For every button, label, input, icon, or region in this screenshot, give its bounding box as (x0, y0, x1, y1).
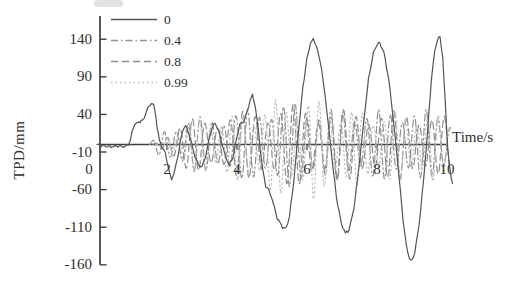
legend-item-2: 0.8 (110, 51, 188, 72)
legend: 0 0.4 0.8 0.99 (110, 9, 188, 93)
x-tick-label: 6 (292, 162, 322, 177)
legend-item-0: 0 (110, 9, 188, 30)
legend-line-solid-icon (110, 17, 158, 22)
y-tick-label: -110 (38, 220, 92, 235)
legend-line-dotted-icon (110, 80, 158, 85)
legend-item-1: 0.4 (110, 30, 188, 51)
y-axis-title: TPD/mm (11, 121, 28, 180)
y-tick-label: 140 (38, 32, 92, 47)
x-tick-label: 0 (74, 162, 104, 177)
legend-label: 0.99 (164, 76, 188, 90)
legend-label: 0.8 (164, 55, 181, 69)
x-tick-label: 4 (222, 162, 252, 177)
y-tick-label: 40 (38, 107, 92, 122)
legend-line-dashdot-icon (110, 38, 158, 43)
x-tick-label: 8 (362, 162, 392, 177)
x-axis-title: Time/s (452, 129, 493, 146)
y-tick-label: 90 (38, 69, 92, 84)
legend-label: 0.4 (164, 34, 181, 48)
x-tick-label: 10 (432, 162, 462, 177)
chart-figure: TPD/mm Time/s 0 0.4 0.8 0.99 14 (0, 0, 530, 289)
legend-line-dashed-icon (110, 59, 158, 64)
y-tick-label: -10 (38, 145, 92, 160)
y-tick-label: -160 (38, 257, 92, 272)
legend-item-3: 0.99 (110, 72, 188, 93)
y-tick-label: -60 (38, 182, 92, 197)
legend-label: 0 (164, 13, 171, 27)
x-tick-label: 2 (152, 162, 182, 177)
